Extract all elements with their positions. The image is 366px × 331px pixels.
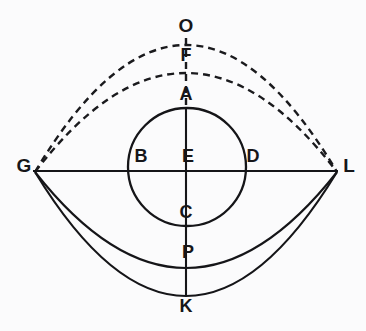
point-label-f: F [181,45,192,65]
point-label-b: B [135,146,148,166]
point-label-p: P [182,242,194,262]
geometric-figure: O F A G B E D L C P K [0,0,366,331]
point-label-g: G [17,155,32,176]
diagram-canvas: O F A G B E D L C P K [0,0,366,331]
point-label-e: E [182,146,194,166]
point-label-d: D [247,146,260,166]
point-label-o: O [179,15,194,36]
point-label-a: A [180,84,193,104]
point-label-c: C [180,202,193,222]
point-label-l: L [343,155,355,176]
point-label-k: K [180,296,193,316]
